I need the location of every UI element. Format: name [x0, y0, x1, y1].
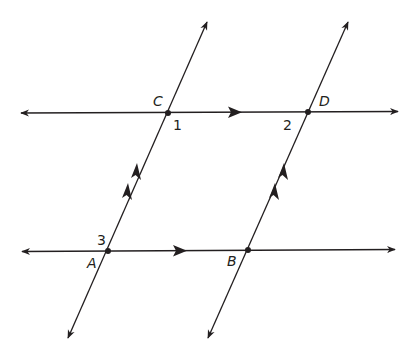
line-BD	[208, 22, 348, 338]
point-C	[165, 110, 171, 116]
label-D: D	[319, 93, 330, 109]
line-AC	[68, 22, 207, 338]
parallel-marker-right-double-icon	[269, 163, 288, 200]
label-B: B	[227, 253, 237, 269]
parallelogram-diagram: C D A B 1 2 3	[0, 0, 420, 359]
angle-label-1: 1	[173, 117, 182, 133]
point-D	[305, 109, 311, 115]
line-AB	[22, 250, 395, 252]
point-A	[105, 248, 111, 254]
label-A: A	[86, 255, 97, 271]
angle-label-2: 2	[283, 117, 292, 133]
line-CD	[21, 112, 398, 114]
label-C: C	[153, 93, 163, 109]
point-B	[245, 247, 251, 253]
angle-label-3: 3	[97, 232, 106, 248]
